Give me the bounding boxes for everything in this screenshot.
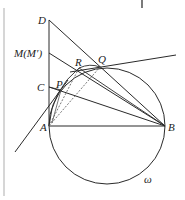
line-DB (49, 20, 165, 126)
label-D: D (37, 14, 46, 26)
label-Q: Q (98, 53, 106, 65)
line-MB (49, 53, 165, 126)
line-RB (79, 68, 165, 126)
tangent-line-Q (70, 55, 176, 72)
label-P: P (55, 78, 63, 90)
label-C: C (37, 81, 45, 93)
geometry-diagram: D M(M′) C P R Q A B ω (0, 0, 185, 200)
line-CB (49, 87, 165, 126)
label-A: A (39, 121, 47, 133)
label-omega: ω (144, 173, 152, 185)
label-B: B (168, 121, 175, 133)
label-M: M(M′) (13, 47, 42, 60)
label-R: R (74, 56, 82, 68)
